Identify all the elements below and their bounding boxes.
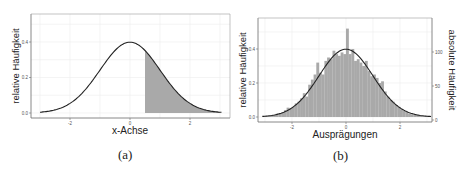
histogram-bar <box>297 102 300 117</box>
histogram-bar <box>333 51 336 117</box>
chart-a: -202 0.00.20.4 x-Achse relative Häufigke… <box>10 14 230 136</box>
histogram-bar <box>324 61 327 117</box>
caption-b: (b) <box>333 148 348 164</box>
histogram-bar <box>400 109 403 117</box>
histogram-bar <box>414 115 417 117</box>
svg-text:0.4: 0.4 <box>249 47 256 52</box>
svg-text:2: 2 <box>399 125 402 130</box>
histogram-bar <box>338 56 341 117</box>
histogram-bar <box>327 58 330 118</box>
svg-text:-2: -2 <box>68 121 72 126</box>
caption-a: (a) <box>118 147 132 163</box>
histogram-bar <box>370 76 373 117</box>
histogram-bar <box>397 107 400 117</box>
histogram-bar <box>387 97 390 117</box>
histogram-bar <box>354 61 357 117</box>
svg-text:0.0: 0.0 <box>22 111 29 116</box>
histogram-bar <box>292 107 295 117</box>
histogram-bar <box>351 49 354 117</box>
histogram-bar <box>381 81 384 117</box>
histogram-bar <box>365 61 368 117</box>
histogram-bar <box>389 100 392 117</box>
svg-text:0: 0 <box>435 118 438 123</box>
histogram-bar <box>408 114 411 117</box>
histogram-bar <box>330 59 333 117</box>
histogram-bar <box>322 75 325 118</box>
svg-text:2: 2 <box>189 121 192 126</box>
histogram-bar <box>349 54 352 117</box>
chart-a-y-label: relative Häufigkeit <box>10 28 21 104</box>
chart-a-y-ticks: 0.00.20.4 <box>22 40 31 116</box>
chart-b-right-y-ticks: 050100 <box>432 50 443 123</box>
svg-text:50: 50 <box>435 84 441 89</box>
histogram-bar <box>411 114 414 117</box>
figure: -202 0.00.20.4 x-Achse relative Häufigke… <box>0 0 464 172</box>
chart-b-right-y-label: absolute Häufigkeit <box>447 30 458 111</box>
histogram-bar <box>373 75 376 118</box>
svg-text:0.0: 0.0 <box>249 115 256 120</box>
svg-text:0.4: 0.4 <box>22 40 29 45</box>
histogram-bar <box>368 71 371 117</box>
chart-b: -202 0.00.20.4 050100 Ausprägungen relat… <box>237 18 458 140</box>
svg-text:0.2: 0.2 <box>249 81 256 86</box>
chart-a-x-label: x-Achse <box>112 125 149 136</box>
histogram-bar <box>341 52 344 117</box>
svg-text:-2: -2 <box>290 125 294 130</box>
chart-b-x-label: Ausprägungen <box>312 129 377 140</box>
chart-b-y-label: relative Häufigkeit <box>237 32 248 108</box>
histogram-bar <box>362 66 365 117</box>
histogram-bar <box>319 73 322 117</box>
chart-b-y-ticks: 0.00.20.4 <box>249 47 258 120</box>
histogram-bar <box>316 63 319 117</box>
chart-a-plot-area <box>31 14 230 118</box>
histogram-bar <box>403 111 406 117</box>
histogram-bar <box>343 54 346 117</box>
histogram-bar <box>360 63 363 117</box>
histogram-bar <box>346 29 349 117</box>
histogram-bar <box>395 105 398 117</box>
svg-text:0.2: 0.2 <box>22 75 29 80</box>
histogram-bar <box>357 59 360 117</box>
histogram-bar <box>335 54 338 117</box>
svg-text:100: 100 <box>435 50 443 55</box>
histogram-bar <box>306 97 309 117</box>
figure-canvas: -202 0.00.20.4 x-Achse relative Häufigke… <box>0 0 464 172</box>
